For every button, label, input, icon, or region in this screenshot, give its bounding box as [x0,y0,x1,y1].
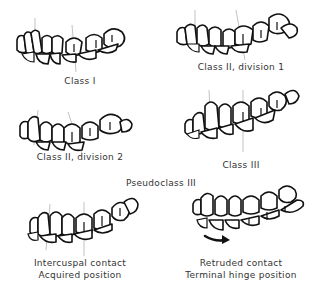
label-class-1: Class I [40,76,120,87]
panel-intercuspal-contact: Intercuspal contact Acquired position [0,190,161,293]
curved-arrow-right-icon [203,232,233,246]
panel-class-2-div-2: Class II, division 2 [0,90,161,160]
dental-arch-class-3-drawing [161,90,322,160]
label-class-2-div-2: Class II, division 2 [20,152,140,163]
dental-arch-class-2-div-1-drawing [161,0,322,90]
label-class-3: Class III [201,160,281,171]
label-retruded-contact: Retruded contact [181,258,301,269]
label-intercuspal-contact: Intercuspal contact [20,258,140,269]
label-acquired-position: Acquired position [20,270,140,281]
panel-class-2-div-1: Class II, division 1 [161,0,322,90]
dental-arch-class-2-div-2-drawing [0,90,161,160]
label-terminal-hinge-position: Terminal hinge position [171,270,311,281]
panel-class-1: Class I [0,0,161,90]
panel-class-3: Class III [161,90,322,160]
panel-retruded-contact: Retruded contact Terminal hinge position [161,190,322,293]
label-class-2-div-1: Class II, division 1 [181,62,301,73]
section-heading-pseudoclass-3: Pseudoclass III [0,178,322,188]
